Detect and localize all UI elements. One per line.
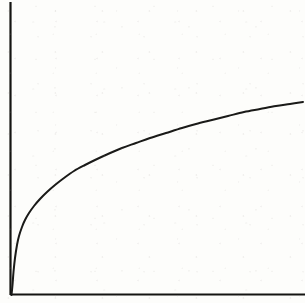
plot-svg	[0, 0, 305, 303]
figure-canvas: Hand drawn plot showing a concave increa…	[0, 0, 305, 303]
plot-background	[0, 0, 305, 303]
